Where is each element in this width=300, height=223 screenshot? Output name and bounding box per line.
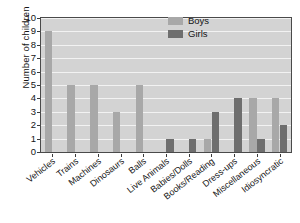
- legend-item-boys: Boys: [168, 14, 209, 27]
- bar-group: [223, 18, 246, 152]
- bar-chart: Number of children 012345678910 BoysGirl…: [0, 0, 300, 223]
- bar-group: [109, 18, 132, 152]
- legend-item-girls: Girls: [168, 27, 209, 40]
- y-axis-tick-label: 5: [22, 80, 36, 90]
- y-axis-tick-mark: [37, 125, 40, 126]
- y-axis-tick-label: 7: [22, 53, 36, 63]
- bar-group: [132, 18, 155, 152]
- bar-group: [268, 18, 291, 152]
- plot-area: [40, 17, 292, 153]
- y-axis-tick-mark: [37, 18, 40, 19]
- x-axis-tick-label: Vehicles: [25, 156, 58, 185]
- y-axis-tick-mark: [37, 112, 40, 113]
- y-axis-tick-label: 10: [22, 13, 36, 23]
- y-axis-tick-mark: [37, 152, 40, 153]
- x-axis-tick-labels: VehiclesTrainsMachinesDinosaursBallsLive…: [40, 154, 292, 220]
- bar-group: [64, 18, 87, 152]
- bar-girls: [257, 139, 265, 152]
- bars-layer: [41, 18, 291, 152]
- bar-group: [86, 18, 109, 152]
- legend: BoysGirls: [168, 14, 209, 40]
- bar-boys: [90, 85, 98, 152]
- y-axis-tick-mark: [37, 45, 40, 46]
- bar-boys: [136, 85, 144, 152]
- x-axis-tick-mark: [234, 154, 235, 157]
- y-axis-tick-mark: [37, 98, 40, 99]
- legend-swatch-icon: [168, 30, 183, 38]
- y-axis-tick-label: 6: [22, 67, 36, 77]
- x-axis-tick-mark: [211, 154, 212, 157]
- y-axis-tick-label: 2: [22, 120, 36, 130]
- bar-girls: [189, 139, 197, 152]
- gridline: [41, 152, 291, 153]
- bar-boys: [45, 31, 53, 152]
- bar-boys: [204, 139, 212, 152]
- y-axis-tick-label: 1: [22, 134, 36, 144]
- y-axis-tick-mark: [37, 139, 40, 140]
- bar-group: [246, 18, 269, 152]
- y-axis-tick-label: 0: [22, 147, 36, 157]
- bar-group: [41, 18, 64, 152]
- y-axis-tick-label: 3: [22, 107, 36, 117]
- bar-girls: [166, 139, 174, 152]
- y-axis-tick-label: 9: [22, 26, 36, 36]
- y-axis-tick-mark: [37, 58, 40, 59]
- y-axis-tick-mark: [37, 31, 40, 32]
- bar-girls: [280, 125, 288, 152]
- y-axis-tick-label: 8: [22, 40, 36, 50]
- bar-girls: [212, 112, 220, 152]
- legend-label: Boys: [188, 15, 209, 26]
- legend-swatch-icon: [168, 17, 183, 25]
- bar-girls: [234, 98, 242, 152]
- y-axis-tick-labels: 012345678910: [22, 10, 36, 160]
- bar-boys: [249, 98, 257, 152]
- plot-inner: [41, 18, 291, 152]
- legend-label: Girls: [188, 28, 208, 39]
- bar-boys: [113, 112, 121, 152]
- y-axis-tick-mark: [37, 85, 40, 86]
- bar-boys: [67, 85, 75, 152]
- y-axis-tick-mark: [37, 72, 40, 73]
- y-axis-tick-label: 4: [22, 93, 36, 103]
- bar-boys: [272, 98, 280, 152]
